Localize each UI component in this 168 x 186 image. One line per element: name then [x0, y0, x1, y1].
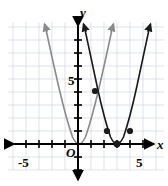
x-tick-label-5: 5 [136, 156, 143, 169]
graph-figure: y x O -5 5 5 [0, 0, 168, 186]
grid-lines [8, 22, 164, 170]
data-point [127, 128, 133, 134]
origin-label: O [66, 146, 75, 159]
x-tick-label-neg5: -5 [18, 156, 29, 169]
y-axis-label: y [80, 6, 86, 19]
x-axis [14, 140, 154, 148]
data-point [92, 88, 98, 94]
y-tick-label-5: 5 [68, 74, 75, 87]
x-axis-label: x [157, 138, 164, 151]
data-point [104, 128, 110, 134]
data-point [114, 141, 121, 148]
